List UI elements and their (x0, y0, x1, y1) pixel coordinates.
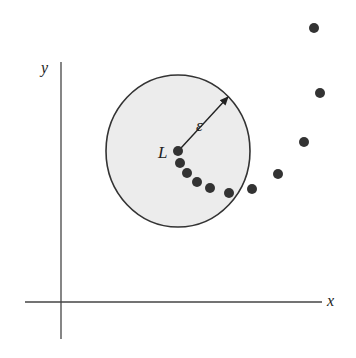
diagram-canvas: x y ε L (0, 0, 356, 358)
sequence-point (315, 88, 325, 98)
x-axis-label: x (326, 292, 334, 309)
epsilon-label: ε (196, 116, 203, 135)
sequence-point (299, 137, 309, 147)
sequence-point (182, 168, 192, 178)
sequence-point (175, 158, 185, 168)
sequence-point (205, 183, 215, 193)
sequence-point (309, 23, 319, 33)
sequence-point (247, 184, 257, 194)
sequence-point (273, 169, 283, 179)
limit-label: L (157, 143, 167, 162)
sequence-point (192, 177, 202, 187)
limit-diagram: x y ε L (0, 0, 356, 358)
sequence-point (224, 188, 234, 198)
sequence-point (173, 146, 183, 156)
y-axis-label: y (39, 59, 49, 77)
